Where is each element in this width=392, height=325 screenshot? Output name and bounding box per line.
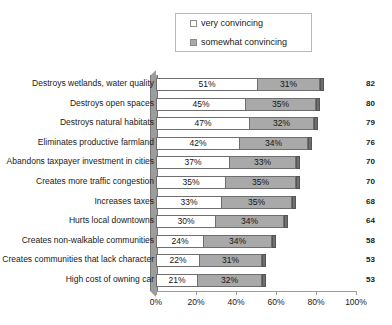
bar-row: Increases taxes33%35%68 <box>0 193 392 212</box>
bar-end-cap <box>296 176 300 189</box>
bar-end-cap <box>292 196 296 209</box>
bar-end-cap <box>320 78 324 91</box>
bar-segment-very-convincing[interactable]: 51% <box>156 78 258 91</box>
row-total-value: 76 <box>366 138 375 147</box>
category-label: High cost of owning car <box>66 274 154 284</box>
x-axis-line <box>156 291 356 292</box>
bar-segment-somewhat-convincing[interactable]: 35% <box>222 196 292 209</box>
row-total-value: 53 <box>366 255 375 264</box>
stacked-bar[interactable]: 42%34% <box>156 137 312 150</box>
stacked-bar[interactable]: 45%35% <box>156 98 320 111</box>
legend-item-very-convincing: very convincing <box>176 14 311 33</box>
bar-segment-very-convincing[interactable]: 30% <box>156 215 216 228</box>
bar-segment-very-convincing[interactable]: 22% <box>156 254 200 267</box>
bar-segment-value: 32% <box>221 276 238 285</box>
bar-segment-value: 24% <box>171 237 188 246</box>
stacked-bar[interactable]: 47%32% <box>156 117 318 130</box>
x-axis-tick <box>156 291 157 295</box>
bar-segment-value: 34% <box>265 139 282 148</box>
category-label: Creates communities that lack character <box>2 254 154 264</box>
x-axis-tick-label: 0% <box>150 297 162 307</box>
bar-segment-very-convincing[interactable]: 21% <box>156 274 198 287</box>
row-total-value: 68 <box>366 197 375 206</box>
x-axis-tick <box>236 291 237 295</box>
bar-row: Destroys natural habitats47%32%79 <box>0 114 392 133</box>
x-axis-tick <box>196 291 197 295</box>
chart-legend: very convincing somewhat convincing <box>175 13 312 52</box>
category-label: Creates more traffic congestion <box>36 176 154 186</box>
bar-end-cap <box>296 156 300 169</box>
category-label: Creates non-walkable communities <box>22 235 154 245</box>
category-label: Eliminates productive farmland <box>38 137 154 147</box>
bar-segment-very-convincing[interactable]: 37% <box>156 156 230 169</box>
bar-segment-value: 33% <box>180 198 197 207</box>
bar-segment-value: 33% <box>254 158 271 167</box>
bar-segment-value: 47% <box>194 119 211 128</box>
bar-segment-somewhat-convincing[interactable]: 32% <box>198 274 262 287</box>
x-axis-tick <box>316 291 317 295</box>
category-label: Destroys wetlands, water quality <box>32 78 154 88</box>
x-axis-tick-label: 40% <box>227 297 244 307</box>
bar-end-cap <box>262 254 266 267</box>
stacked-bar[interactable]: 35%35% <box>156 176 300 189</box>
bar-segment-somewhat-convincing[interactable]: 32% <box>250 117 314 130</box>
x-axis-tick <box>356 291 357 295</box>
bar-segment-very-convincing[interactable]: 35% <box>156 176 226 189</box>
bar-segment-somewhat-convincing[interactable]: 34% <box>240 137 308 150</box>
bar-segment-value: 34% <box>241 217 258 226</box>
bar-segment-value: 32% <box>273 119 290 128</box>
stacked-bar[interactable]: 33%35% <box>156 196 296 209</box>
white-swatch-icon <box>190 20 197 27</box>
x-axis-tick-label: 60% <box>267 297 284 307</box>
bar-end-cap <box>308 137 312 150</box>
stacked-bar[interactable]: 24%34% <box>156 235 276 248</box>
bar-segment-very-convincing[interactable]: 45% <box>156 98 246 111</box>
bar-segment-somewhat-convincing[interactable]: 34% <box>216 215 284 228</box>
bar-segment-very-convincing[interactable]: 33% <box>156 196 222 209</box>
x-axis-tick-label: 80% <box>307 297 324 307</box>
bar-row: High cost of owning car21%32%53 <box>0 271 392 290</box>
row-total-value: 58 <box>366 236 375 245</box>
stacked-bar[interactable]: 30%34% <box>156 215 288 228</box>
bar-end-cap <box>316 98 320 111</box>
stacked-bar[interactable]: 51%31% <box>156 78 324 91</box>
legend-item-somewhat-convincing: somewhat convincing <box>176 33 311 52</box>
row-total-value: 80 <box>366 99 375 108</box>
bar-segment-value: 51% <box>198 80 215 89</box>
bar-segment-value: 22% <box>169 256 186 265</box>
bar-segment-very-convincing[interactable]: 47% <box>156 117 250 130</box>
row-total-value: 79 <box>366 118 375 127</box>
bar-segment-value: 31% <box>222 256 239 265</box>
row-total-value: 70 <box>366 177 375 186</box>
legend-item-label: somewhat convincing <box>201 38 287 47</box>
category-label: Abandons taxpayer investment in cities <box>7 156 154 166</box>
gray-swatch-icon <box>190 39 197 46</box>
bar-segment-value: 35% <box>272 100 289 109</box>
category-label: Hurts local downtowns <box>69 215 154 225</box>
bar-end-cap <box>314 117 318 130</box>
bar-segment-very-convincing[interactable]: 24% <box>156 235 204 248</box>
bar-segment-somewhat-convincing[interactable]: 33% <box>230 156 296 169</box>
category-label: Increases taxes <box>94 196 154 206</box>
bar-segment-very-convincing[interactable]: 42% <box>156 137 240 150</box>
bar-segment-somewhat-convincing[interactable]: 31% <box>258 78 320 91</box>
x-axis-tick-label: 100% <box>345 297 367 307</box>
bar-row: Hurts local downtowns30%34%64 <box>0 212 392 231</box>
bar-row: Destroys open spaces45%35%80 <box>0 95 392 114</box>
bar-segment-value: 35% <box>248 198 265 207</box>
bar-segment-somewhat-convincing[interactable]: 34% <box>204 235 272 248</box>
bar-segment-value: 42% <box>189 139 206 148</box>
stacked-bar[interactable]: 21%32% <box>156 274 266 287</box>
stacked-bar[interactable]: 37%33% <box>156 156 300 169</box>
bar-segment-value: 30% <box>177 217 194 226</box>
stacked-bar[interactable]: 22%31% <box>156 254 266 267</box>
bar-segment-somewhat-convincing[interactable]: 35% <box>226 176 296 189</box>
row-total-value: 53 <box>366 275 375 284</box>
row-total-value: 82 <box>366 79 375 88</box>
bar-segment-somewhat-convincing[interactable]: 31% <box>200 254 262 267</box>
bar-segment-value: 21% <box>168 276 185 285</box>
stacked-bar-chart: Destroys wetlands, water quality51%31%82… <box>0 70 392 325</box>
x-axis-tick-label: 20% <box>187 297 204 307</box>
bar-segment-somewhat-convincing[interactable]: 35% <box>246 98 316 111</box>
bar-segment-value: 35% <box>252 178 269 187</box>
